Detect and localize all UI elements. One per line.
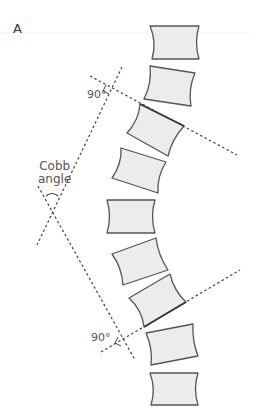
- angle-label-bottom: 90°: [91, 331, 111, 344]
- cobb-angle-label: Cobb angle: [38, 160, 71, 186]
- vertebra-1: [150, 26, 199, 59]
- cobb-label-line2: angle: [38, 173, 71, 186]
- vertebra-6: [112, 238, 168, 285]
- vertebra-9: [150, 373, 198, 405]
- vertebra-8: [146, 324, 198, 365]
- cobb-angle-arc: [46, 194, 58, 197]
- spine-figure: [0, 0, 264, 417]
- angle-label-top: 90°: [87, 88, 107, 101]
- panel-label: A: [13, 22, 22, 35]
- right-angle-marker-bottom: [115, 337, 121, 346]
- vertebra-4: [112, 148, 166, 193]
- vertebra-2: [144, 66, 195, 106]
- vertebrae: [107, 26, 199, 405]
- vertebra-5: [107, 200, 155, 233]
- cobb-angle-diagram: A Cobb angle 90° 90°: [0, 0, 264, 417]
